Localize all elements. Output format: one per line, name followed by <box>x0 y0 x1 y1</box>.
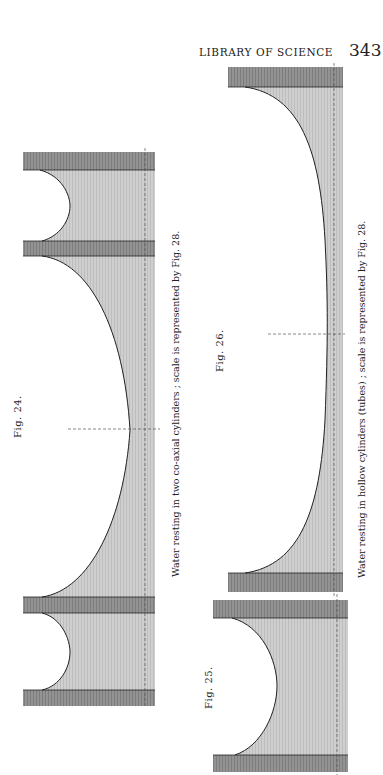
figures-illustration <box>0 0 383 775</box>
fig-25-label: Fig. 25. <box>203 666 214 709</box>
fig-24-drawing <box>23 148 160 708</box>
fig-25-drawing <box>213 594 348 775</box>
fig-24-label: Fig. 24. <box>12 395 23 438</box>
fig-24-caption: Water resting in two co-axial cylinders … <box>170 231 181 577</box>
fig-26-caption: Water resting in hollow cylinders (tubes… <box>356 221 367 578</box>
fig-26-label: Fig. 26. <box>214 329 225 372</box>
fig-26-drawing <box>228 63 345 596</box>
